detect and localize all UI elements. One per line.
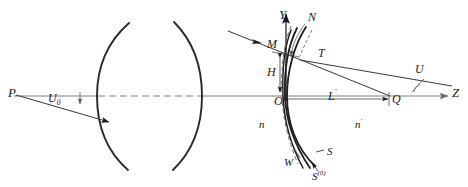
label-marginal-point: M: [267, 38, 277, 50]
index-image-prime: ′: [361, 117, 363, 124]
label-reference-sphere: S(0): [312, 170, 325, 182]
label-normal: N: [308, 11, 316, 23]
optical-diagram-figure: P U0 Y N M H T O L′ Q U Z n n′ W S S(0): [0, 0, 468, 187]
label-index-object: n: [259, 119, 265, 130]
image-distance-letter: L: [328, 89, 335, 103]
label-ray-height: H: [267, 66, 276, 78]
image-angle-arc: [414, 84, 420, 92]
label-surface: S: [327, 146, 333, 157]
curve-reference-sphere: [285, 28, 310, 168]
refracted-ray-group: [296, 58, 452, 96]
label-image-distance: L′: [328, 89, 336, 102]
label-object-angle: U0: [48, 92, 60, 107]
label-z-axis: Z: [452, 86, 459, 99]
leader-S: [316, 150, 324, 152]
label-vertex: O: [274, 95, 283, 107]
label-wavefront: W: [284, 157, 293, 168]
label-tangent-point: T: [318, 47, 325, 59]
object-angle-letter: U: [48, 91, 57, 105]
label-source-point: P: [8, 86, 16, 99]
label-image-point: Q: [392, 93, 401, 105]
label-index-image: n′: [355, 118, 362, 130]
label-image-angle: U: [415, 63, 424, 75]
object-angle-subscript: 0: [57, 98, 61, 107]
reference-sphere-superscript: (0): [318, 169, 326, 176]
image-distance-prime: ′: [335, 88, 337, 97]
refracted-ray-to-image: [296, 58, 390, 96]
object-ray: [16, 95, 109, 122]
label-y-axis: Y: [279, 8, 286, 21]
image-distance-dimension: [289, 92, 389, 106]
wavefront-curves-group: [282, 26, 315, 168]
refracted-ray-extension: [300, 60, 452, 86]
